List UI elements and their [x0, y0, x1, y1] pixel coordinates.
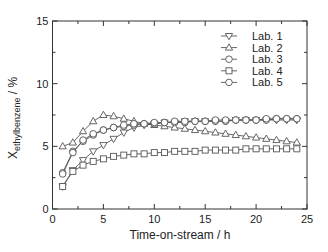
data-point-marker: [70, 149, 77, 156]
data-point-marker: [222, 117, 229, 124]
y-tick-label: 10: [36, 78, 48, 90]
data-point-marker: [60, 183, 66, 189]
data-point-marker: [151, 119, 158, 126]
data-point-marker: [90, 158, 96, 164]
svg-text:Xethylbenzene / %: Xethylbenzene / %: [6, 77, 22, 160]
data-point-marker: [110, 124, 117, 131]
data-point-marker: [253, 117, 260, 124]
data-point-marker: [120, 122, 127, 129]
y-label-main: X: [6, 151, 20, 159]
y-tick-label: 0: [42, 203, 48, 215]
data-series: [59, 111, 300, 190]
series-line: [63, 149, 297, 187]
data-point-marker: [80, 162, 86, 168]
data-point-marker: [80, 137, 87, 144]
data-point-marker: [100, 143, 107, 149]
data-point-marker: [70, 168, 76, 174]
data-point-marker: [243, 146, 249, 152]
series-line: [63, 120, 297, 186]
data-point-marker: [263, 146, 269, 152]
legend-label: Lab. 1: [252, 30, 283, 42]
line-chart: 0510152025051015 Lab. 1Lab. 2Lab. 3Lab. …: [0, 0, 328, 252]
series-line: [63, 119, 297, 173]
data-point-marker: [161, 119, 168, 126]
data-point-marker: [131, 151, 137, 157]
data-point-marker: [226, 68, 232, 74]
data-point-marker: [151, 150, 157, 156]
data-point-marker: [273, 115, 280, 122]
data-point-marker: [120, 130, 127, 136]
legend-item: Lab. 5: [221, 76, 283, 88]
data-point-marker: [294, 146, 300, 152]
data-point-marker: [90, 117, 97, 123]
data-point-marker: [226, 79, 233, 86]
y-tick-label: 15: [36, 15, 48, 27]
data-point-marker: [263, 115, 270, 122]
legend: Lab. 1Lab. 2Lab. 3Lab. 4Lab. 5: [221, 30, 283, 88]
x-tick-label: 15: [199, 213, 211, 225]
data-point-marker: [111, 153, 117, 159]
x-tick-label: 20: [250, 213, 262, 225]
data-point-marker: [182, 118, 189, 125]
legend-label: Lab. 2: [252, 42, 283, 54]
data-point-marker: [192, 148, 198, 154]
data-point-marker: [110, 136, 117, 142]
legend-item: Lab. 2: [221, 42, 283, 54]
data-point-marker: [172, 148, 178, 154]
legend-item: Lab. 1: [221, 30, 283, 42]
data-point-marker: [283, 115, 290, 122]
data-point-marker: [121, 152, 127, 158]
series-line: [63, 119, 297, 174]
data-point-marker: [161, 150, 167, 156]
x-tick-label: 25: [301, 213, 313, 225]
data-point-marker: [223, 147, 229, 153]
data-point-marker: [100, 156, 106, 162]
data-point-marker: [233, 147, 239, 153]
y-label-sub: ethylbenzene: [12, 98, 22, 152]
data-point-marker: [225, 34, 232, 40]
data-point-marker: [182, 148, 188, 154]
x-axis-label: Time-on-stream / h: [130, 228, 231, 242]
data-point-marker: [100, 111, 107, 117]
data-point-marker: [243, 117, 250, 124]
data-point-marker: [141, 151, 147, 157]
data-point-marker: [212, 117, 219, 124]
data-point-marker: [294, 115, 301, 122]
data-point-marker: [59, 171, 66, 178]
y-label-unit: / %: [6, 77, 20, 98]
y-axis-label: Xethylbenzene / %: [6, 77, 22, 160]
x-tick-label: 0: [49, 213, 55, 225]
legend-label: Lab. 5: [252, 76, 283, 88]
series-lab-4: [60, 146, 300, 190]
data-point-marker: [212, 147, 218, 153]
data-point-marker: [232, 117, 239, 124]
data-point-marker: [225, 44, 232, 50]
data-point-marker: [100, 127, 107, 134]
legend-item: Lab. 4: [221, 65, 283, 77]
data-point-marker: [202, 147, 208, 153]
data-point-marker: [141, 120, 148, 127]
data-point-marker: [284, 146, 290, 152]
data-point-marker: [273, 146, 279, 152]
data-point-marker: [226, 56, 233, 63]
data-point-marker: [90, 131, 97, 138]
data-point-marker: [90, 149, 97, 155]
data-point-marker: [131, 120, 138, 127]
legend-label: Lab. 4: [252, 65, 283, 77]
data-point-marker: [192, 118, 199, 125]
legend-item: Lab. 3: [221, 53, 283, 65]
data-point-marker: [253, 146, 259, 152]
x-tick-label: 5: [100, 213, 106, 225]
legend-label: Lab. 3: [252, 53, 283, 65]
data-point-marker: [202, 118, 209, 125]
y-tick-label: 5: [42, 140, 48, 152]
x-tick-label: 10: [148, 213, 160, 225]
data-point-marker: [171, 118, 178, 125]
